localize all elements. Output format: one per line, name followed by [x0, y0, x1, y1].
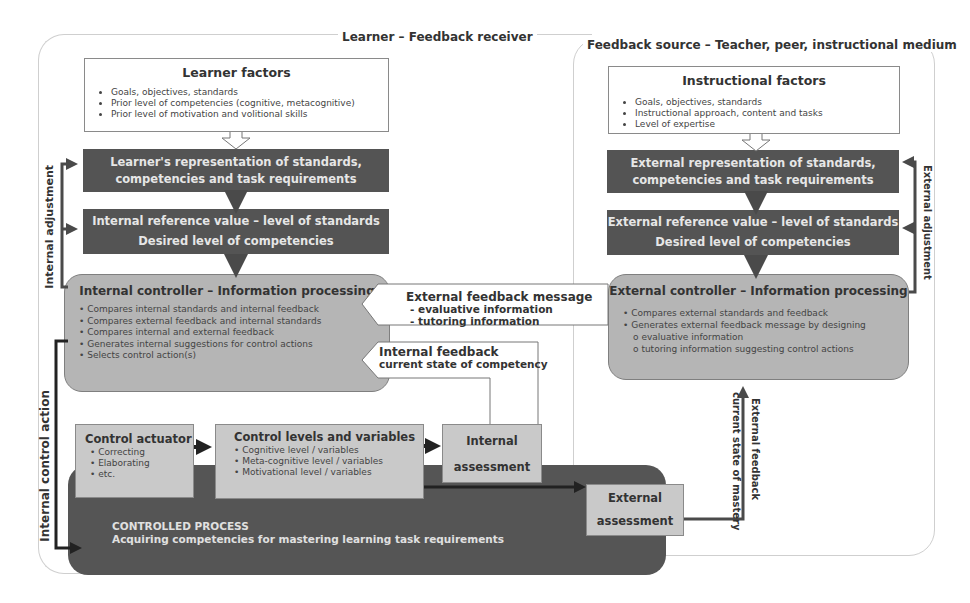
internal-feedback-subtitle: current state of competency — [379, 358, 548, 370]
internal-assessment-box: Internal assessment — [442, 424, 542, 483]
internal-control-action-loop — [56, 341, 76, 548]
external-adjustment-label: External adjustment — [922, 165, 933, 280]
control-levels-title: Control levels and variables — [234, 430, 423, 444]
control-levels-item: Cognitive level / variables — [234, 445, 423, 456]
external-feedback-message-title: External feedback message — [406, 291, 592, 303]
control-actuator-title: Control actuator — [85, 432, 193, 446]
control-levels-item: Motivational level / variables — [234, 467, 423, 478]
internal-adjustment-loop — [62, 164, 72, 287]
control-actuator-box: Control actuator Correcting Elaborating … — [75, 424, 194, 498]
control-levels-box: Control levels and variables Cognitive l… — [215, 424, 424, 499]
external-assessment-line2: assessment — [587, 514, 683, 528]
control-levels-item: Meta-cognitive level / variables — [234, 456, 423, 467]
internal-feedback-label: Internal feedback current state of compe… — [379, 346, 548, 370]
control-actuator-list: Correcting Elaborating etc. — [85, 447, 193, 480]
internal-assessment-line1: Internal — [443, 434, 541, 448]
internal-assessment-line2: assessment — [443, 460, 541, 474]
external-assessment-box: External assessment — [586, 484, 684, 536]
hollow-arrow-learner — [222, 132, 250, 149]
internal-control-action-label: Internal control action — [38, 390, 52, 542]
external-feedback-label: External feedback — [744, 398, 761, 500]
hollow-arrow-source — [742, 134, 770, 151]
external-assessment-line1: External — [587, 491, 683, 505]
external-feedback-message-item: - tutoring information — [406, 315, 592, 327]
external-feedback-mastery-label: current state of mastery — [731, 392, 742, 530]
internal-feedback-title: Internal feedback — [379, 346, 548, 358]
external-feedback-message-item: - evaluative information — [406, 303, 592, 315]
internal-adjustment-label: Internal adjustment — [43, 165, 56, 289]
control-actuator-item: etc. — [90, 469, 193, 480]
external-feedback-message: External feedback message - evaluative i… — [406, 291, 592, 327]
control-actuator-item: Elaborating — [90, 458, 193, 469]
control-levels-list: Cognitive level / variables Meta-cogniti… — [234, 445, 423, 478]
control-actuator-item: Correcting — [90, 447, 193, 458]
